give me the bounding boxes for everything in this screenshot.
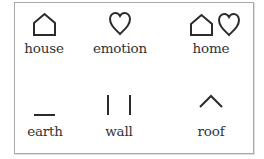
chevron-up-icon [199,95,223,109]
label-home: home [166,40,256,56]
two-vertical-lines-icon [104,94,134,116]
house-icon [33,13,56,36]
label-wall: wall [74,123,164,139]
label-emotion: emotion [75,40,165,56]
heart-icon [109,12,131,35]
label-roof: roof [166,123,256,139]
house-icon [190,14,213,36]
horizontal-line-icon [33,110,56,120]
heart-icon [218,13,240,36]
